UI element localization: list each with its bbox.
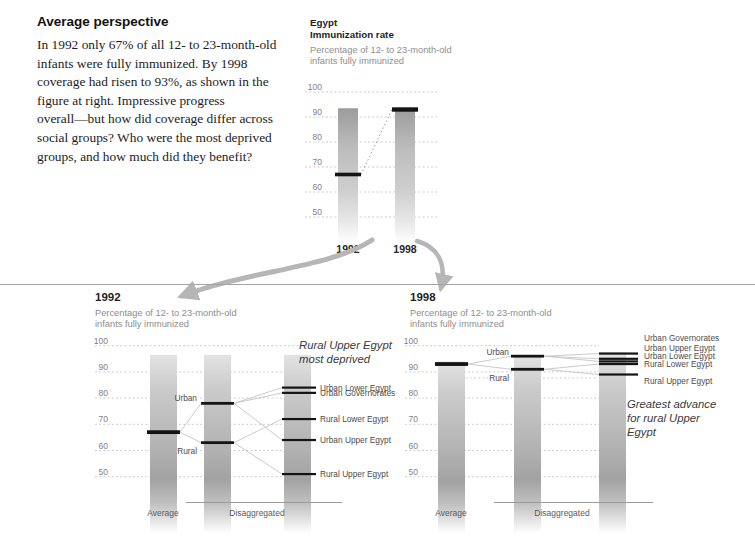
- urban-label: Urban: [486, 347, 509, 357]
- bar: [150, 355, 177, 533]
- value-marker-1998: [392, 107, 418, 111]
- rural-label: Rural: [177, 446, 197, 456]
- axis-tick-label: 100: [94, 336, 108, 346]
- text-line: In 1992 only 67% of all 12- to 23-month-…: [37, 36, 307, 55]
- axis-tick-label: 100: [404, 336, 418, 346]
- x-group-label-average: Average: [435, 508, 467, 518]
- connector-line: [544, 354, 599, 357]
- text-line: infants fully immunized: [95, 319, 237, 330]
- axis-tick-label: 60: [409, 441, 419, 451]
- axis-tick-label: 90: [313, 107, 323, 117]
- connector-line: [234, 419, 282, 443]
- text-line: Percentage of 12- to 23-month-old: [95, 308, 237, 319]
- text-line: infants fully immunized: [310, 56, 452, 67]
- chart-1998-header: 1998 Percentage of 12- to 23-month-oldin…: [410, 291, 552, 330]
- region-marker: [599, 352, 638, 354]
- rural-marker: [511, 368, 544, 371]
- connector-line: [180, 432, 201, 442]
- axis-tick-label: 60: [99, 441, 109, 451]
- region-label: Urban Upper Egypt: [320, 435, 392, 445]
- region-marker: [599, 358, 638, 360]
- region-marker: [599, 363, 638, 365]
- x-group-label-disaggregated: Disaggregated: [534, 508, 590, 518]
- region-marker: [282, 387, 316, 389]
- region-label: Rural Upper Egypt: [644, 376, 713, 386]
- text-line: Rural Upper Egypt: [299, 338, 392, 352]
- chart-1992-header: 1992 Percentage of 12- to 23-month-oldin…: [95, 291, 237, 330]
- region-label: Rural Lower Egypt: [644, 359, 713, 369]
- overview-subtitle: Percentage of 12- to 23-month-oldinfants…: [310, 45, 452, 67]
- connector-line: [180, 403, 201, 432]
- region-marker: [282, 418, 316, 420]
- connector-line: [234, 443, 282, 474]
- urban-label: Urban: [174, 393, 197, 403]
- bar: [284, 355, 311, 533]
- overview-title: Immunization rate: [310, 29, 452, 41]
- axis-tick-label: 90: [409, 362, 419, 372]
- text-line: most deprived: [299, 352, 392, 366]
- bar: [514, 355, 541, 533]
- axis-tick-label: 80: [409, 388, 419, 398]
- region-marker: [282, 439, 316, 441]
- region-marker: [599, 360, 638, 362]
- connector-line: [234, 388, 282, 404]
- overview-header: Egypt Immunization rate Percentage of 12…: [310, 17, 452, 67]
- connector-line: [234, 393, 282, 403]
- connector-line: [468, 356, 511, 364]
- urban-marker: [201, 402, 234, 405]
- urban-marker: [511, 355, 544, 358]
- axis-tick-label: 70: [409, 414, 419, 424]
- chart-1998-subtitle: Percentage of 12- to 23-month-oldinfants…: [410, 308, 552, 330]
- region-label: Rural Upper Egypt: [320, 469, 389, 479]
- section-divider-line: [0, 284, 755, 285]
- axis-tick-label: 80: [99, 388, 109, 398]
- annotation-1992-most-deprived: Rural Upper Egyptmost deprived: [299, 338, 392, 366]
- axis-tick-label: 100: [308, 82, 322, 92]
- x-group-label-disaggregated: Disaggregated: [229, 508, 285, 518]
- region-label: Rural Lower Egypt: [320, 414, 389, 424]
- intro-block: Average perspective In 1992 only 67% of …: [37, 14, 307, 166]
- axis-tick-label: 90: [99, 362, 109, 372]
- connector-line: [468, 364, 511, 369]
- book-figure-page: 100908070605019921998 1009080706050Urban…: [0, 0, 755, 546]
- x-axis-year-label: 1998: [393, 243, 417, 255]
- text-line: Greatest advance: [627, 397, 716, 411]
- axis-tick-label: 50: [99, 467, 109, 477]
- x-group-label-average: Average: [147, 508, 179, 518]
- text-line: figure at right. Impressive progress: [37, 92, 307, 111]
- overview-chart: 100908070605019921998: [305, 82, 438, 255]
- text-line: Percentage of 12- to 23-month-old: [310, 45, 452, 56]
- curved-arrow-to-1998-chart: [417, 241, 443, 288]
- axis-tick-label: 50: [313, 207, 323, 217]
- bar: [599, 352, 626, 533]
- axis-tick-label: 60: [313, 182, 323, 192]
- text-line: Percentage of 12- to 23-month-old: [410, 308, 552, 319]
- region-marker: [282, 392, 316, 394]
- text-line: groups, and how much did they benefit?: [37, 148, 307, 167]
- region-label: Urban Governorates: [644, 333, 719, 343]
- average-marker: [147, 430, 180, 434]
- text-line: social groups? Who were the most deprive…: [37, 129, 307, 148]
- intro-paragraph: In 1992 only 67% of all 12- to 23-month-…: [37, 36, 307, 166]
- region-label: Urban Governorates: [320, 388, 395, 398]
- text-line: for rural Upper: [627, 411, 716, 425]
- text-line: infants were fully immunized. By 1998: [37, 55, 307, 74]
- chart-1992-subtitle: Percentage of 12- to 23-month-oldinfants…: [95, 308, 237, 330]
- text-line: overall—but how did coverage differ acro…: [37, 110, 307, 129]
- value-marker-1992: [335, 173, 361, 177]
- bar: [395, 108, 415, 243]
- text-line: coverage had risen to 93%, as shown in t…: [37, 73, 307, 92]
- axis-tick-label: 70: [99, 414, 109, 424]
- chart-1992-title: 1992: [95, 291, 237, 303]
- text-line: infants fully immunized: [410, 319, 552, 330]
- average-marker: [435, 362, 468, 366]
- region-marker: [282, 473, 316, 475]
- connector-line: [234, 403, 282, 440]
- overview-country: Egypt: [310, 17, 452, 29]
- region-marker: [599, 373, 638, 375]
- rural-marker: [201, 441, 234, 444]
- axis-tick-label: 70: [313, 157, 323, 167]
- axis-tick-label: 50: [409, 467, 419, 477]
- chart-1998-title: 1998: [410, 291, 552, 303]
- rural-label: Rural: [489, 373, 509, 383]
